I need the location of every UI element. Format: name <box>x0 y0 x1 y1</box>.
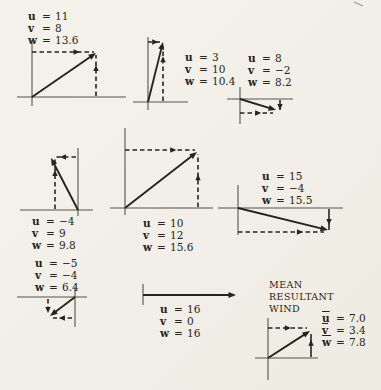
value-line: v=−2 <box>248 64 292 76</box>
variable-name: v <box>262 182 276 194</box>
value-line: u=8 <box>248 52 292 64</box>
variable-value: 8 <box>275 52 292 64</box>
variable-name: u <box>248 52 262 64</box>
variable-value: 15.6 <box>170 241 193 253</box>
equals-sign: = <box>276 170 289 182</box>
variable-name: v <box>143 229 157 241</box>
variable-name: v <box>28 22 42 34</box>
vector-diagram-8-values: u=16v=0w=16 <box>160 303 200 339</box>
variable-name: w <box>262 194 276 206</box>
equals-sign: = <box>42 10 55 22</box>
equals-sign: = <box>199 63 212 75</box>
variable-name: u <box>160 303 174 315</box>
value-line: w=8.2 <box>248 76 292 88</box>
equals-sign: = <box>157 241 170 253</box>
value-line: u=3 <box>185 51 235 63</box>
variable-name: u <box>143 217 157 229</box>
resultant-vector-line <box>32 55 93 97</box>
value-line: w=6.4 <box>35 281 79 293</box>
equals-sign: = <box>276 194 289 206</box>
equals-sign: = <box>157 217 170 229</box>
vector-diagram-mean-values: u=7.0v=3.4w=7.8 <box>322 312 366 348</box>
vector-diagram-7-values: u=−5v=−4w=6.4 <box>35 257 79 293</box>
variable-name: w <box>143 241 157 253</box>
equals-sign: = <box>157 229 170 241</box>
resultant-vector-line <box>53 297 75 314</box>
variable-name: w <box>160 327 174 339</box>
variable-value: 16 <box>187 327 200 339</box>
value-line: v=10 <box>185 63 235 75</box>
equals-sign: = <box>336 336 349 348</box>
equals-sign: = <box>46 227 59 239</box>
vector-diagram-5 <box>110 128 213 215</box>
equals-sign: = <box>42 22 55 34</box>
vector-diagram-3 <box>227 87 293 124</box>
variable-value: 10 <box>212 63 235 75</box>
value-line: w=9.8 <box>32 239 76 251</box>
variable-name: u <box>32 215 46 227</box>
vector-diagram-4 <box>20 148 93 216</box>
component-arrowhead <box>308 340 313 346</box>
variable-name: u <box>185 51 199 63</box>
equals-sign: = <box>262 76 275 88</box>
variable-value: −4 <box>62 269 79 281</box>
value-line: v=−4 <box>35 269 79 281</box>
variable-name: w <box>185 75 199 87</box>
component-arrowhead <box>170 147 176 152</box>
value-line: u=−4 <box>32 215 76 227</box>
component-arrowhead <box>60 154 66 159</box>
component-arrowhead <box>195 174 200 180</box>
value-line: v=0 <box>160 315 200 327</box>
equals-sign: = <box>49 257 62 269</box>
equals-sign: = <box>336 312 349 324</box>
vector-diagram-2 <box>133 37 188 110</box>
equals-sign: = <box>49 269 62 281</box>
variable-value: 10.4 <box>212 75 235 87</box>
heading-line: MEAN <box>269 279 334 291</box>
value-line: v=3.4 <box>322 324 366 336</box>
resultant-vector-line <box>268 333 307 358</box>
variable-name: u <box>35 257 49 269</box>
value-line: v=−4 <box>262 182 312 194</box>
variable-value: 9 <box>59 227 76 239</box>
equals-sign: = <box>262 64 275 76</box>
equals-sign: = <box>42 34 55 46</box>
vector-diagram-6-values: u=15v=−4w=15.5 <box>262 170 312 206</box>
value-line: w=15.5 <box>262 194 312 206</box>
value-line: u=11 <box>28 10 78 22</box>
variable-value: 15 <box>289 170 312 182</box>
vector-diagram-7 <box>17 287 87 327</box>
heading-line: RESULTANT <box>269 291 334 303</box>
equals-sign: = <box>336 324 349 336</box>
value-line: v=12 <box>143 229 193 241</box>
variable-name: u <box>28 10 42 22</box>
wind-vector-figure: u=11v=8w=13.6u=3v=10w=10.4u=8v=−2w=8.2u=… <box>0 0 381 390</box>
resultant-vector-line <box>238 208 324 229</box>
value-line: w=10.4 <box>185 75 235 87</box>
variable-value: −4 <box>289 182 312 194</box>
equals-sign: = <box>199 75 212 87</box>
vector-diagram-8 <box>143 284 236 305</box>
variable-value: 11 <box>55 10 78 22</box>
variable-value: 13.6 <box>55 34 78 46</box>
value-line: u=16 <box>160 303 200 315</box>
variable-value: 7.0 <box>349 312 366 324</box>
resultant-vector-arrowhead <box>268 105 277 113</box>
variable-value: −2 <box>275 64 292 76</box>
variable-value: 3 <box>212 51 235 63</box>
equals-sign: = <box>174 303 187 315</box>
variable-name: v <box>160 315 174 327</box>
variable-value: 6.4 <box>62 281 79 293</box>
component-arrowhead <box>74 49 80 54</box>
vector-diagram-3-values: u=8v=−2w=8.2 <box>248 52 292 88</box>
component-arrowhead <box>59 315 65 320</box>
equals-sign: = <box>46 215 59 227</box>
component-arrowhead <box>45 307 50 313</box>
variable-value: 10 <box>170 217 193 229</box>
variable-name: v <box>185 63 199 75</box>
component-arrowhead <box>297 229 303 234</box>
equals-sign: = <box>174 327 187 339</box>
variable-name: w <box>32 239 46 251</box>
resultant-vector-line <box>53 162 78 210</box>
component-arrowhead <box>326 219 331 225</box>
